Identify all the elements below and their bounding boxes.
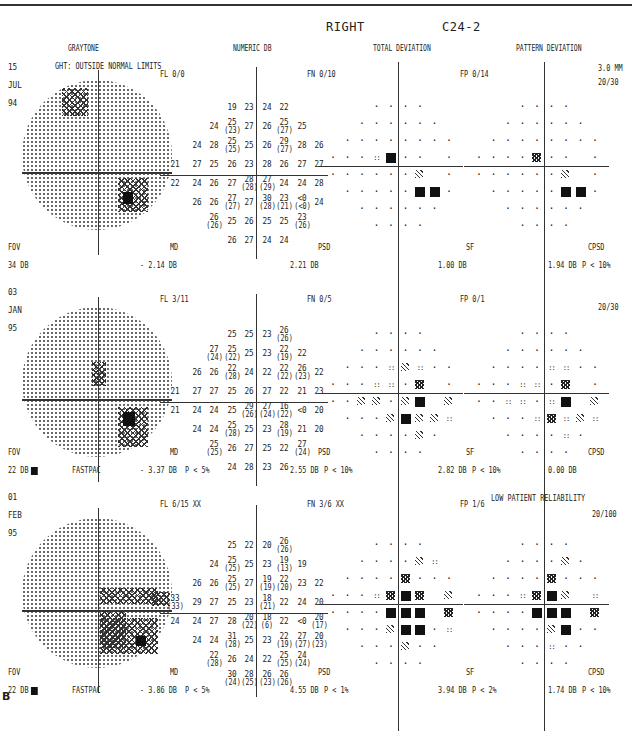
threshold-value: 25 [241, 635, 256, 645]
threshold-value: 28(28) [241, 174, 256, 192]
threshold-value: 22 [276, 597, 291, 607]
deviation-probability-symbol [401, 448, 411, 458]
deviation-probability-symbol [430, 557, 440, 567]
threshold-value: 28 [311, 178, 326, 188]
deviation-probability-symbol [503, 608, 513, 618]
deviation-probability-symbol [561, 119, 571, 129]
deviation-probability-symbol [386, 102, 396, 112]
threshold-value: 22(19) [276, 631, 291, 649]
deviation-probability-symbol [372, 329, 382, 339]
sf-value: 1.00 DB [438, 261, 467, 270]
deviation-probability-symbol [415, 659, 425, 669]
visual-field-panel-3: 01FEB95FL 6/15 XXFN 3/6 XXFP 1/6LOW PATI… [0, 490, 632, 710]
mean-deviation-p: P < 5% [185, 686, 210, 695]
repeat-threshold-value: (28) [224, 373, 239, 381]
deviation-probability-symbol [386, 346, 396, 356]
deviation-probability-symbol [518, 591, 528, 601]
threshold-value: 25 [224, 329, 239, 339]
deviation-probability-symbol [386, 119, 396, 129]
deviation-probability-symbol [489, 574, 499, 584]
deviation-probability-symbol [489, 397, 499, 407]
graytone-defect [100, 610, 126, 648]
deviation-probability-symbol [532, 642, 542, 652]
deviation-probability-symbol [590, 380, 600, 390]
threshold-value: 23(21) [276, 193, 291, 211]
deviation-probability-symbol [576, 204, 586, 214]
threshold-value: 19 [294, 559, 309, 569]
deviation-probability-symbol [532, 329, 542, 339]
deviation-probability-symbol [343, 170, 353, 180]
deviation-probability-symbol [401, 659, 411, 669]
deviation-probability-symbol [386, 591, 395, 600]
repeat-threshold-value: (27) [276, 146, 291, 154]
false-negatives: FN 0/5 [307, 295, 332, 304]
threshold-value: 28 [259, 159, 274, 169]
deviation-probability-symbol [532, 170, 542, 180]
deviation-probability-symbol [518, 119, 528, 129]
threshold-value: 23 [241, 159, 256, 169]
threshold-value: 26(26) [276, 536, 291, 554]
deviation-probability-symbol [532, 574, 542, 584]
threshold-value: 27 [311, 159, 326, 169]
deviation-probability-symbol [444, 574, 454, 584]
deviation-probability-symbol [503, 170, 513, 180]
deviation-probability-symbol [547, 136, 557, 146]
deviation-probability-symbol [547, 204, 557, 214]
sf-p: P < 2% [472, 686, 497, 695]
psd-value: 2.21 DB [290, 261, 319, 270]
horizontal-meridian [464, 166, 609, 167]
deviation-probability-symbol [590, 170, 600, 180]
threshold-value: 25 [241, 140, 256, 150]
threshold-value: 24 [259, 102, 274, 112]
threshold-value: 20 [311, 424, 326, 434]
deviation-probability-symbol [532, 414, 542, 424]
deviation-probability-symbol [415, 187, 425, 197]
deviation-probability-symbol [561, 591, 569, 599]
deviation-probability-symbol [430, 119, 440, 129]
deviation-probability-symbol [328, 153, 338, 163]
deviation-probability-symbol [576, 642, 586, 652]
deviation-probability-symbol [444, 608, 453, 617]
deviation-probability-symbol [518, 642, 528, 652]
deviation-probability-symbol [489, 591, 499, 601]
deviation-probability-symbol [343, 363, 353, 373]
threshold-value: 28(19) [276, 420, 291, 438]
deviation-probability-symbol [401, 431, 411, 441]
threshold-value: 23 [259, 329, 274, 339]
deviation-probability-symbol [474, 153, 484, 163]
deviation-probability-symbol [372, 346, 382, 356]
deviation-probability-symbol [503, 557, 513, 567]
threshold-value: 22 [259, 654, 274, 664]
deviation-probability-symbol [518, 540, 528, 550]
deviation-probability-symbol [430, 346, 440, 356]
deviation-probability-symbol [415, 153, 425, 163]
deviation-probability-symbol [415, 431, 423, 439]
deviation-probability-symbol [503, 397, 513, 407]
deviation-probability-symbol [503, 204, 513, 214]
sf-label: SF [466, 448, 474, 457]
repeat-threshold-value: (26) [276, 335, 291, 343]
deviation-probability-symbol [503, 363, 513, 373]
deviation-probability-symbol [547, 329, 557, 339]
fixation-losses: FL 3/11 [160, 295, 189, 304]
threshold-value: 24 [189, 616, 204, 626]
threshold-value: 22 [311, 367, 326, 377]
threshold-value: 24 [311, 197, 326, 207]
deviation-probability-symbol [474, 591, 484, 601]
deviation-probability-symbol [547, 608, 557, 618]
deviation-probability-symbol [561, 448, 571, 458]
deviation-probability-symbol [386, 363, 396, 373]
threshold-value: 25(25) [224, 136, 239, 154]
deviation-probability-symbol [444, 136, 454, 146]
deviation-probability-symbol [343, 397, 353, 407]
deviation-probability-symbol [386, 221, 396, 231]
threshold-value: 24 [241, 367, 256, 377]
graytone-map [22, 80, 172, 230]
deviation-probability-symbol [386, 625, 394, 633]
test-date-day: 15 [8, 62, 17, 72]
deviation-probability-symbol [415, 119, 425, 129]
deviation-probability-symbol [547, 642, 557, 652]
threshold-value: 21 [167, 405, 182, 415]
deviation-probability-symbol [357, 153, 367, 163]
threshold-value: 20(23) [311, 631, 326, 649]
